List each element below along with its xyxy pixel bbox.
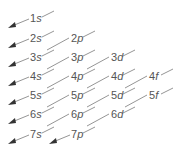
arrow-head-icon <box>8 138 16 144</box>
connector-line <box>87 114 109 126</box>
connector-line <box>47 38 69 50</box>
diagonal-line <box>83 50 95 56</box>
diagonal-line <box>123 50 135 56</box>
connector-line <box>87 57 109 69</box>
aufbau-diagram: 1s2s2p3s3p3d4s4p4d4f5s5p5d5f6s6p6d7s7p <box>0 0 183 157</box>
arrow-head-icon <box>8 99 16 105</box>
orbital-label-6s: 6s <box>30 108 42 120</box>
arrow-head-icon <box>8 80 16 86</box>
orbital-label-5d: 5d <box>111 89 124 101</box>
orbital-label-5p: 5p <box>71 89 83 101</box>
diagonal-line <box>42 31 54 37</box>
diagonal-line <box>83 127 95 133</box>
orbital-label-4f: 4f <box>149 70 159 82</box>
diagonal-line <box>161 69 173 75</box>
connector-line <box>47 57 69 69</box>
diagonal-line <box>123 107 135 113</box>
diagonal-line <box>83 88 95 94</box>
diagonal-line <box>83 69 95 75</box>
arrow-head-icon <box>8 42 16 48</box>
diagonal-line <box>42 11 54 17</box>
orbital-label-5s: 5s <box>30 89 42 101</box>
orbital-label-2p: 2p <box>71 32 83 44</box>
orbital-label-3d: 3d <box>111 51 124 63</box>
diagonal-line <box>83 31 95 37</box>
diagonal-line <box>42 107 54 113</box>
orbital-label-6p: 6p <box>71 108 83 120</box>
connector-line <box>87 76 109 88</box>
orbital-label-4p: 4p <box>71 70 83 82</box>
diagonal-line <box>123 88 135 94</box>
orbital-label-3s: 3s <box>30 51 42 63</box>
connector-line <box>87 95 109 107</box>
diagonal-line <box>42 69 54 75</box>
connector-line <box>47 114 69 126</box>
arrow-head-icon <box>8 118 16 124</box>
orbital-label-3p: 3p <box>71 51 83 63</box>
connector-line <box>125 76 147 88</box>
orbital-label-1s: 1s <box>30 12 42 24</box>
diagonal-line <box>42 50 54 56</box>
diagonal-line <box>123 69 135 75</box>
orbital-label-7p: 7p <box>71 128 83 140</box>
orbital-label-6d: 6d <box>111 108 124 120</box>
orbital-label-7s: 7s <box>30 128 42 140</box>
diagonal-line <box>83 107 95 113</box>
connector-line <box>125 95 147 107</box>
orbital-label-4s: 4s <box>30 70 42 82</box>
diagonal-line <box>42 88 54 94</box>
arrow-head-icon <box>8 61 16 67</box>
arrow-head-icon <box>49 138 57 144</box>
connector-line <box>47 95 69 107</box>
orbital-label-4d: 4d <box>111 70 124 82</box>
diagonal-line <box>42 127 54 133</box>
connector-line <box>47 76 69 88</box>
diagonal-line <box>161 88 173 94</box>
arrow-head-icon <box>8 22 16 28</box>
orbital-label-5f: 5f <box>149 89 159 101</box>
orbital-label-2s: 2s <box>30 32 42 44</box>
